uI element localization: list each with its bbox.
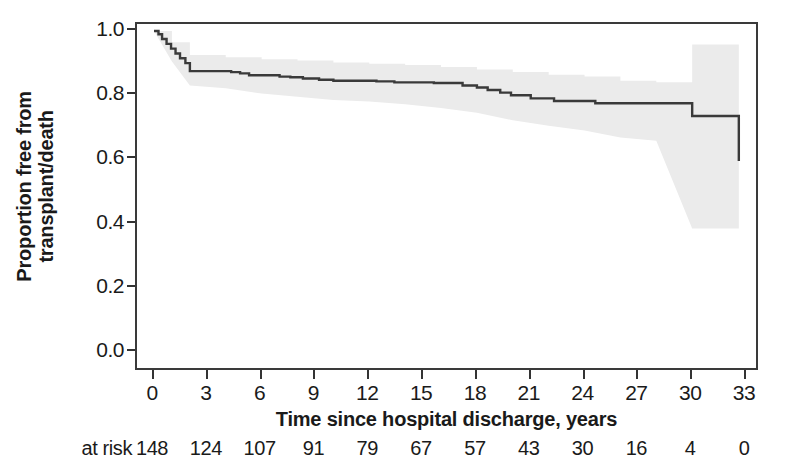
x-axis-tick-mark <box>744 370 746 379</box>
kaplan-meier-figure: Proportion free from transplant/death 0.… <box>0 0 796 475</box>
x-axis-tick-label: 18 <box>445 381 505 405</box>
y-axis-tick-label: 0.2 <box>78 274 124 298</box>
y-axis-tick-mark <box>127 156 135 158</box>
x-axis-tick-label: 33 <box>714 381 774 405</box>
at-risk-values-row: 1481241079179675743301640 <box>135 437 758 467</box>
at-risk-count: 30 <box>553 437 613 460</box>
at-risk-count: 148 <box>122 437 182 460</box>
x-axis-label: Time since hospital discharge, years <box>135 408 758 431</box>
x-axis-tick-mark <box>152 370 154 379</box>
y-axis-tick-label: 1.0 <box>78 17 124 41</box>
x-axis-tick-label: 3 <box>176 381 236 405</box>
x-axis-tick-mark <box>206 370 208 379</box>
plot-area <box>135 22 758 370</box>
y-axis-tick-mark <box>127 28 135 30</box>
y-axis-tick-mark <box>127 92 135 94</box>
x-axis-tick-mark <box>529 370 531 379</box>
x-axis-tick-label: 15 <box>391 381 451 405</box>
at-risk-count: 107 <box>230 437 290 460</box>
x-axis-tick-mark <box>421 370 423 379</box>
y-axis-label-line-1: Proportion free from <box>12 91 34 281</box>
at-risk-count: 4 <box>660 437 720 460</box>
x-axis-tick-label: 6 <box>230 381 290 405</box>
at-risk-count: 0 <box>714 437 774 460</box>
x-axis-tick-mark <box>583 370 585 379</box>
y-axis-tick-label: 0.6 <box>78 145 124 169</box>
at-risk-count: 79 <box>337 437 397 460</box>
x-axis-tick-marks <box>135 370 758 380</box>
at-risk-count: 43 <box>499 437 559 460</box>
x-axis-tick-label: 24 <box>553 381 613 405</box>
x-axis-tick-mark <box>475 370 477 379</box>
y-axis-tick-mark <box>127 285 135 287</box>
x-axis-tick-mark <box>367 370 369 379</box>
at-risk-count: 67 <box>391 437 451 460</box>
survival-curve-svg <box>137 24 756 368</box>
at-risk-count: 16 <box>606 437 666 460</box>
y-axis-tick-label: 0.0 <box>78 338 124 362</box>
x-axis-tick-labels: 03691215182124273033 <box>135 381 758 409</box>
x-axis-tick-label: 30 <box>660 381 720 405</box>
x-axis-tick-label: 0 <box>122 381 182 405</box>
x-axis-tick-mark <box>313 370 315 379</box>
x-axis-tick-label: 27 <box>606 381 666 405</box>
x-axis-tick-mark <box>690 370 692 379</box>
x-axis-tick-mark <box>260 370 262 379</box>
at-risk-count: 124 <box>176 437 236 460</box>
y-axis-tick-labels: 0.00.20.40.60.81.0 <box>78 0 124 475</box>
confidence-interval-band <box>154 31 739 228</box>
x-axis-tick-label: 9 <box>283 381 343 405</box>
at-risk-count: 91 <box>283 437 343 460</box>
x-axis-tick-label: 21 <box>499 381 559 405</box>
y-axis-tick-mark <box>127 221 135 223</box>
x-axis-tick-mark <box>636 370 638 379</box>
x-axis-tick-label: 12 <box>337 381 397 405</box>
y-axis-tick-label: 0.8 <box>78 81 124 105</box>
at-risk-count: 57 <box>445 437 505 460</box>
at-risk-caption: at risk <box>46 437 132 460</box>
y-axis-tick-label: 0.4 <box>78 210 124 234</box>
y-axis-tick-mark <box>127 349 135 351</box>
y-axis-label-line-2: transplant/death <box>35 91 57 281</box>
